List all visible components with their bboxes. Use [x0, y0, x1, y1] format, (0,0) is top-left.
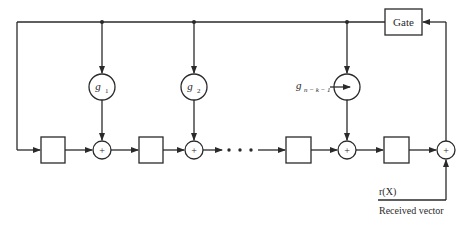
svg-text:n − k − 1: n − k − 1 — [304, 86, 331, 94]
svg-text:+: + — [191, 145, 197, 156]
input-caption: Received vector — [379, 205, 444, 216]
svg-text:+: + — [344, 145, 350, 156]
shift-register-row: + + + + — [41, 137, 455, 163]
tap-g-n-k-1: g n − k − 1 — [296, 22, 360, 140]
gate-label: Gate — [393, 16, 414, 28]
syndrome-circuit-diagram: Gate g 1 g 2 g n − k − 1 + — [0, 0, 471, 225]
svg-text:g: g — [187, 80, 193, 92]
svg-text:+: + — [443, 145, 449, 156]
svg-text:g: g — [296, 79, 302, 91]
adder-1: + — [93, 141, 111, 159]
adder-3: + — [338, 141, 356, 159]
register-stage-1 — [41, 137, 65, 163]
register-stage-2 — [139, 137, 163, 163]
gate-feedback-line — [423, 22, 446, 141]
received-vector-input: r(X) Received vector — [378, 160, 446, 216]
svg-text:2: 2 — [197, 87, 201, 95]
svg-text:1: 1 — [105, 87, 109, 95]
adder-2: + — [185, 141, 203, 159]
tap-g1: g 1 — [89, 22, 115, 140]
svg-text:g: g — [95, 80, 101, 92]
adder-input: + — [437, 141, 455, 159]
gate-block: Gate — [385, 9, 422, 35]
ellipsis-dots — [227, 148, 252, 151]
svg-text:+: + — [99, 145, 105, 156]
register-stage-n-k-1 — [286, 137, 311, 163]
tap-g2: g 2 — [181, 22, 207, 140]
register-stage-n-k — [384, 137, 409, 163]
input-label: r(X) — [379, 186, 396, 198]
